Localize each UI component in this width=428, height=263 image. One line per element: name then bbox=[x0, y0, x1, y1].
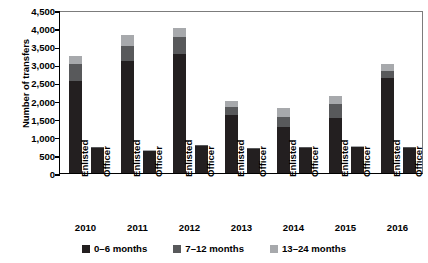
bar-segment bbox=[121, 35, 134, 46]
bar-segment bbox=[121, 46, 134, 62]
y-axis-tick-label: 0 bbox=[18, 169, 55, 180]
x-axis-label-2015-enlisted: Enlisted bbox=[339, 140, 350, 177]
y-axis-tick-mark bbox=[55, 156, 60, 157]
bar-segment bbox=[277, 108, 290, 116]
y-axis-tick-mark bbox=[55, 84, 60, 85]
y-axis-tick-labels: 05001,0001,5002,0002,5003,0003,5004,0004… bbox=[18, 0, 55, 263]
x-axis-label-2011-officer: Officer bbox=[153, 146, 164, 177]
bar-segment bbox=[173, 37, 186, 54]
x-axis-group-label-2013: 2013 bbox=[231, 222, 252, 233]
bar-segment bbox=[329, 104, 342, 117]
y-axis-tick-mark bbox=[55, 66, 60, 67]
x-axis-label-2012-officer: Officer bbox=[205, 146, 216, 177]
x-axis-group-label-2016: 2016 bbox=[387, 222, 408, 233]
x-axis-label-2012-enlisted: Enlisted bbox=[183, 140, 194, 177]
legend-swatch-7-12-months bbox=[173, 245, 181, 253]
x-axis-label-2013-enlisted: Enlisted bbox=[235, 140, 246, 177]
bar-segment bbox=[277, 117, 290, 128]
y-axis-tick-mark bbox=[55, 29, 60, 30]
y-axis-tick-label: 4,000 bbox=[18, 24, 55, 35]
y-axis-tick-mark bbox=[55, 11, 60, 12]
y-axis-tick-label: 2,500 bbox=[18, 78, 55, 89]
legend-item: 13–24 months bbox=[270, 243, 346, 254]
x-axis-label-2010-officer: Officer bbox=[101, 146, 112, 177]
y-axis-tick-mark bbox=[55, 48, 60, 49]
x-axis-group-label-2014: 2014 bbox=[283, 222, 304, 233]
bar-segment bbox=[69, 64, 82, 81]
legend-label: 7–12 months bbox=[185, 243, 244, 254]
x-axis-label-2015-officer: Officer bbox=[361, 146, 372, 177]
x-axis-label-2016-enlisted: Enlisted bbox=[391, 140, 402, 177]
chart-legend: 0–6 months7–12 months13–24 months bbox=[0, 243, 428, 254]
x-axis-label-2011-enlisted: Enlisted bbox=[131, 140, 142, 177]
legend-label: 0–6 months bbox=[94, 243, 147, 254]
x-axis-label-2016-officer: Officer bbox=[413, 146, 424, 177]
x-axis-group-label-2012: 2012 bbox=[179, 222, 200, 233]
y-axis-tick-label: 3,000 bbox=[18, 60, 55, 71]
y-axis-tick-label: 500 bbox=[18, 150, 55, 161]
x-axis-label-2013-officer: Officer bbox=[257, 146, 268, 177]
y-axis-tick-label: 4,500 bbox=[18, 6, 55, 17]
y-axis-tick-label: 1,000 bbox=[18, 132, 55, 143]
bar-segment bbox=[381, 71, 394, 79]
x-axis-group-label-2011: 2011 bbox=[127, 222, 148, 233]
bar-segment bbox=[173, 28, 186, 37]
legend-item: 0–6 months bbox=[82, 243, 147, 254]
stacked-bar-chart: Number of transfers 05001,0001,5002,0002… bbox=[0, 0, 428, 263]
bar-segment bbox=[69, 56, 82, 64]
bar-segment bbox=[225, 107, 238, 115]
x-axis-label-2010-enlisted: Enlisted bbox=[79, 140, 90, 177]
y-axis-tick-mark bbox=[55, 138, 60, 139]
bar-segment bbox=[329, 96, 342, 105]
x-axis-label-2014-enlisted: Enlisted bbox=[287, 140, 298, 177]
y-axis-tick-mark bbox=[55, 120, 60, 121]
legend-label: 13–24 months bbox=[282, 243, 346, 254]
y-axis-tick-label: 2,000 bbox=[18, 96, 55, 107]
x-axis-group-label-2010: 2010 bbox=[75, 222, 96, 233]
x-axis-group-label-2015: 2015 bbox=[335, 222, 356, 233]
legend-item: 7–12 months bbox=[173, 243, 244, 254]
y-axis-tick-mark bbox=[55, 174, 60, 175]
y-axis-tick-label: 1,500 bbox=[18, 114, 55, 125]
x-axis-label-2014-officer: Officer bbox=[309, 146, 320, 177]
y-axis-tick-mark bbox=[55, 102, 60, 103]
y-axis-tick-label: 3,500 bbox=[18, 42, 55, 53]
legend-swatch-13-24-months bbox=[270, 245, 278, 253]
legend-swatch-0-6-months bbox=[82, 245, 90, 253]
